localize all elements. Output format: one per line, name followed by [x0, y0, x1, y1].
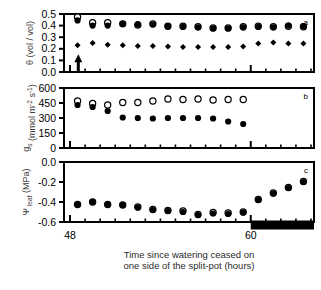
data-point-filled-circle [270, 190, 276, 196]
data-point-filled-diamond [120, 42, 126, 48]
y-tick-label: 0.1 [41, 54, 56, 66]
data-point-filled-circle [210, 210, 216, 216]
data-point-open-circle [120, 99, 126, 105]
data-point-filled-diamond [270, 39, 276, 45]
y-tick-label: 0.3 [41, 31, 56, 43]
x-tick-label: 48 [64, 229, 76, 241]
data-point-filled-circle [165, 208, 171, 214]
data-point-open-circle [195, 96, 201, 102]
y-tick-label: 600 [38, 82, 56, 94]
data-point-filled-circle [165, 115, 171, 121]
data-point-filled-diamond [210, 44, 216, 50]
figure-container: 0.00.10.20.30.40.5a0150300450600b-0.6-0.… [0, 0, 321, 290]
panel-b: 0150300450600b [38, 82, 314, 154]
panel-b-frame [64, 88, 314, 148]
y-axis-title-psi-leaf: Ψ leaf (MPa) [21, 169, 33, 216]
y-tick-label: 150 [38, 127, 56, 139]
x-axis-title-line2: one side of the split-pot (hours) [124, 260, 255, 271]
data-point-filled-circle [255, 24, 261, 30]
data-point-filled-circle [180, 209, 186, 215]
panel-a: 0.00.10.20.30.40.5a [41, 8, 314, 78]
data-point-open-circle [165, 96, 171, 102]
data-point-filled-diamond [90, 40, 96, 46]
y-tick-label: -0.6 [38, 216, 56, 228]
data-point-open-circle [210, 97, 216, 103]
y-tick-label: 0.4 [41, 19, 56, 31]
data-point-filled-circle [225, 25, 231, 31]
data-point-filled-circle [135, 204, 141, 210]
data-point-filled-circle [270, 24, 276, 30]
data-point-filled-circle [300, 179, 306, 185]
data-point-filled-circle [90, 23, 96, 29]
y-tick-label: 0.0 [41, 66, 56, 78]
data-point-filled-diamond [255, 41, 261, 47]
data-point-filled-diamond [240, 43, 246, 49]
data-point-filled-circle [165, 23, 171, 29]
panel-c: -0.6-0.4-0.20.0c [38, 156, 314, 230]
y-tick-label: 450 [38, 97, 56, 109]
y-axis-title-gs: gs (mmol m-2 s-1) [21, 84, 37, 151]
data-point-filled-diamond [225, 44, 231, 50]
data-point-filled-circle [195, 24, 201, 30]
data-point-filled-diamond [180, 44, 186, 50]
data-point-filled-circle [105, 201, 111, 207]
y-tick-label: -0.4 [38, 196, 56, 208]
data-point-filled-diamond [150, 43, 156, 49]
x-axis-title-line1: Time since watering ceased on [124, 249, 255, 260]
y-tick-label: 300 [38, 112, 56, 124]
data-point-open-circle [225, 96, 231, 102]
data-point-filled-diamond [105, 42, 111, 48]
panel-letter-b: b [304, 92, 309, 101]
data-point-filled-circle [225, 211, 231, 217]
data-point-open-circle [105, 102, 111, 108]
data-point-filled-circle [135, 21, 141, 27]
watering-ceased-arrow-head [74, 54, 82, 62]
data-point-filled-circle [90, 199, 96, 205]
panel-letter-c: c [304, 166, 308, 175]
panel-a-frame [64, 14, 314, 72]
x-tick-label: 60 [245, 229, 257, 241]
data-point-filled-circle [150, 207, 156, 213]
data-point-filled-circle [225, 118, 231, 124]
data-point-filled-circle [240, 209, 246, 215]
data-point-filled-circle [285, 23, 291, 29]
data-point-filled-diamond [195, 44, 201, 50]
y-tick-label: 0.2 [41, 42, 56, 54]
data-point-filled-circle [210, 25, 216, 31]
data-point-filled-circle [120, 114, 126, 120]
data-point-filled-diamond [285, 41, 291, 47]
data-point-filled-circle [210, 115, 216, 121]
data-point-filled-circle [74, 102, 80, 108]
data-point-filled-circle [135, 115, 141, 121]
y-tick-label: 0 [50, 142, 56, 154]
data-point-filled-circle [255, 197, 261, 203]
multi-panel-scatter-figure: 0.00.10.20.30.40.5a0150300450600b-0.6-0.… [0, 0, 321, 290]
data-point-filled-diamond [135, 43, 141, 49]
data-point-filled-circle [180, 115, 186, 121]
data-point-open-circle [135, 99, 141, 105]
data-point-filled-circle [90, 104, 96, 110]
data-point-filled-diamond [165, 43, 171, 49]
data-point-filled-circle [180, 24, 186, 30]
data-point-filled-circle [74, 201, 80, 207]
y-tick-label: -0.2 [38, 176, 56, 188]
data-point-open-circle [180, 96, 186, 102]
data-point-filled-circle [105, 23, 111, 29]
y-axis-title-theta: θ (vol / vol) [25, 21, 35, 65]
data-point-filled-circle [195, 212, 201, 218]
y-tick-label: 0.5 [41, 8, 56, 20]
data-point-filled-circle [120, 21, 126, 27]
data-point-filled-circle [120, 202, 126, 208]
data-point-filled-circle [195, 115, 201, 121]
data-point-filled-circle [105, 108, 111, 114]
data-point-filled-circle [150, 115, 156, 121]
y-tick-label: 0.0 [41, 156, 56, 168]
data-point-filled-circle [285, 185, 291, 191]
data-point-filled-circle [240, 24, 246, 30]
data-point-filled-diamond [300, 41, 306, 47]
data-point-open-circle [240, 96, 246, 102]
data-point-open-circle [150, 98, 156, 104]
data-point-filled-circle [74, 17, 80, 23]
data-point-filled-diamond [75, 42, 81, 48]
data-point-filled-circle [150, 21, 156, 27]
